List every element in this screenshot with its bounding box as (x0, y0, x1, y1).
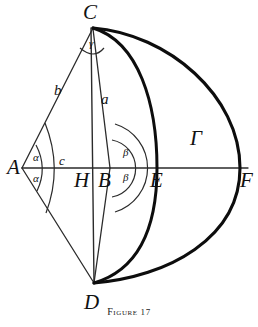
arc-through-F (93, 28, 240, 283)
point-label-C: C (83, 2, 97, 23)
angle-label-alpha-upper: α (33, 152, 39, 163)
figure-caption: Figure 17 (0, 306, 258, 317)
point-label-F: F (240, 170, 253, 191)
angle-label-beta-lower: β (123, 172, 128, 183)
point-label-B: B (98, 170, 111, 191)
angle-label-gamma: γ (89, 38, 93, 49)
point-label-H: H (74, 170, 89, 191)
side-label-b: b (54, 83, 62, 98)
angle-label-beta-upper: β (123, 147, 128, 158)
geometry-diagram (0, 0, 258, 327)
figure-17: A C D H B E F b a c α α β β γ Γ Figure 1… (0, 0, 258, 327)
caption-word: Figure (107, 306, 138, 317)
segment-CD-vertical (91, 28, 94, 283)
region-label-gamma-capital: Γ (190, 128, 202, 149)
segment-AC (22, 28, 93, 168)
caption-number: 17 (141, 307, 151, 317)
side-label-c: c (59, 154, 65, 167)
side-label-a: a (101, 92, 109, 107)
angle-label-alpha-lower: α (33, 173, 39, 184)
point-label-A: A (7, 157, 20, 178)
point-label-E: E (150, 170, 163, 191)
